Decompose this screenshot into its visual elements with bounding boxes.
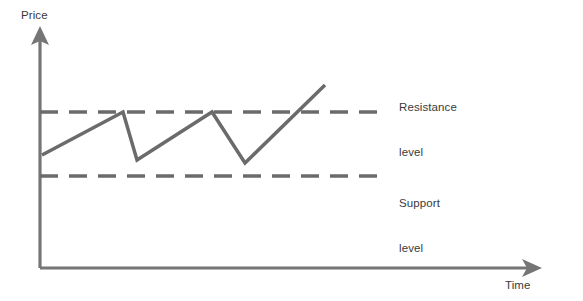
support-level-annotation: Support level	[399, 166, 440, 286]
support-annotation-line2: level	[399, 241, 440, 256]
chart-canvas	[0, 0, 583, 301]
y-axis-label: Price	[21, 8, 48, 23]
resistance-annotation-line1: Resistance	[399, 100, 457, 115]
resistance-annotation-line2: level	[399, 145, 457, 160]
x-axis-group	[40, 259, 542, 277]
price-chart-figure: Price Time Resistance level Support leve…	[0, 0, 583, 301]
y-axis-group	[31, 26, 49, 268]
x-axis-label: Time	[505, 278, 531, 293]
support-annotation-line1: Support	[399, 196, 440, 211]
price-series-line	[42, 85, 325, 163]
